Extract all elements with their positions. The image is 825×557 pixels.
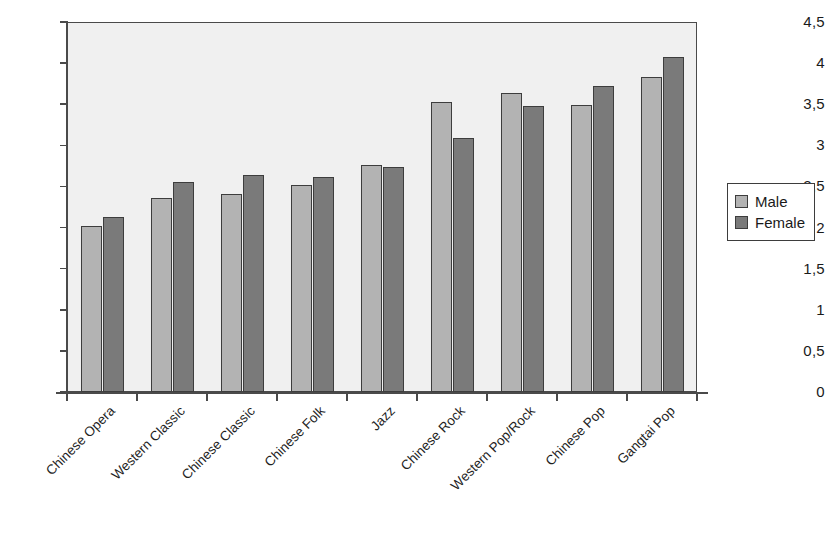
bar-male-6[interactable] <box>501 93 522 392</box>
y-axis-tick <box>60 62 68 64</box>
legend-item-male[interactable]: Male <box>735 191 805 212</box>
bar-male-4[interactable] <box>361 165 382 392</box>
bar-female-2[interactable] <box>243 175 264 392</box>
x-axis-tick <box>276 392 278 401</box>
x-axis-tick <box>136 392 138 401</box>
x-axis-category-label: Chinese Opera <box>44 404 118 478</box>
female-swatch-icon <box>735 216 748 229</box>
x-axis-category-label: Chinese Rock <box>399 404 468 473</box>
y-axis-tick-label: 0 <box>771 384 825 399</box>
x-axis-tick <box>206 392 208 401</box>
y-axis-tick-label: 0,5 <box>771 343 825 358</box>
x-axis-category-label: Jazz <box>368 404 397 433</box>
y-axis-tick-label: 3,5 <box>771 96 825 111</box>
y-axis-tick <box>60 309 68 311</box>
bar-female-7[interactable] <box>593 86 614 392</box>
bar-male-8[interactable] <box>641 77 662 392</box>
y-axis-tick <box>60 21 68 23</box>
x-axis-tick <box>346 392 348 401</box>
x-axis-category-label: Chinese Folk <box>262 404 327 469</box>
legend-item-female[interactable]: Female <box>735 212 805 233</box>
bar-male-7[interactable] <box>571 105 592 392</box>
male-swatch-icon <box>735 195 748 208</box>
bar-male-2[interactable] <box>221 194 242 392</box>
y-axis-tick-label: 4 <box>771 55 825 70</box>
y-axis-line <box>66 22 68 393</box>
bar-female-3[interactable] <box>313 177 334 392</box>
bar-female-6[interactable] <box>523 106 544 392</box>
y-axis-tick <box>60 350 68 352</box>
y-axis-tick-label: 3 <box>771 137 825 152</box>
bar-male-3[interactable] <box>291 185 312 392</box>
x-axis-category-label: Western Classic <box>109 404 187 482</box>
bar-male-1[interactable] <box>151 198 172 392</box>
y-axis-tick-label: 1 <box>771 302 825 317</box>
x-axis-tick <box>626 392 628 401</box>
x-axis-tick <box>66 392 68 401</box>
x-axis-tick <box>556 392 558 401</box>
x-axis-line <box>56 392 708 394</box>
x-axis-category-label: Gangtai Pop <box>615 404 678 467</box>
grouped-bar-chart: 00,511,522,533,544,5 Chinese OperaWester… <box>0 0 825 557</box>
legend-label-male: Male <box>755 194 788 209</box>
bar-male-5[interactable] <box>431 102 452 392</box>
y-axis-tick <box>60 268 68 270</box>
y-axis-tick <box>60 145 68 147</box>
y-axis-tick-label: 1,5 <box>771 261 825 276</box>
y-axis-tick-label: 4,5 <box>771 14 825 29</box>
x-axis-category-label: Chinese Pop <box>543 404 607 468</box>
bar-female-8[interactable] <box>663 57 684 392</box>
bar-male-0[interactable] <box>81 226 102 392</box>
bar-female-1[interactable] <box>173 182 194 392</box>
y-axis-tick <box>60 186 68 188</box>
y-axis-tick <box>60 103 68 105</box>
x-axis-tick <box>416 392 418 401</box>
x-axis-category-label: Chinese Classic <box>180 404 258 482</box>
legend: Male Female <box>727 183 815 241</box>
bar-female-4[interactable] <box>383 167 404 392</box>
legend-label-female: Female <box>755 215 805 230</box>
y-axis-tick <box>60 227 68 229</box>
bar-female-5[interactable] <box>453 138 474 392</box>
x-axis-tick <box>696 392 698 401</box>
x-axis-tick <box>486 392 488 401</box>
bar-female-0[interactable] <box>103 217 124 392</box>
